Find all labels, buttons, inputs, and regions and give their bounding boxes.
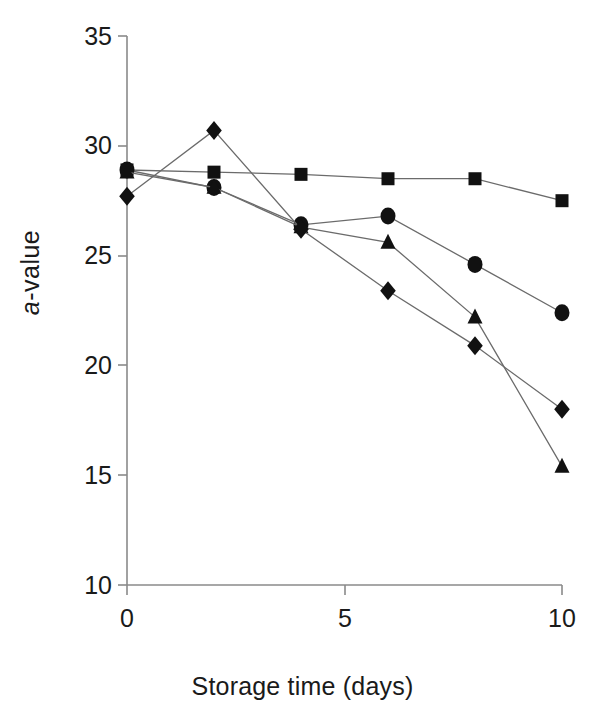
data-point-circle-8[interactable] <box>468 256 483 273</box>
axes-group <box>118 36 562 595</box>
data-point-square-2[interactable] <box>208 166 221 179</box>
series-line-square <box>127 170 562 201</box>
series-line-circle <box>127 170 562 313</box>
plot-area <box>0 0 605 724</box>
data-point-triangle-8[interactable] <box>468 308 483 323</box>
series-line-triangle <box>127 172 562 466</box>
data-point-diamond-0[interactable] <box>119 187 135 206</box>
series-triangle <box>120 163 570 472</box>
data-point-square-6[interactable] <box>382 172 395 185</box>
chart-figure: a-value Storage time (days) 35 30 25 20 … <box>0 0 605 724</box>
series-layer <box>119 121 570 473</box>
data-point-diamond-8[interactable] <box>467 336 483 355</box>
data-point-circle-10[interactable] <box>555 304 570 321</box>
data-point-circle-6[interactable] <box>381 208 396 225</box>
data-point-triangle-10[interactable] <box>555 458 570 473</box>
series-diamond <box>119 121 570 419</box>
data-point-square-10[interactable] <box>556 194 569 207</box>
data-point-square-8[interactable] <box>469 172 482 185</box>
data-point-square-4[interactable] <box>295 168 308 181</box>
data-point-diamond-10[interactable] <box>554 400 570 419</box>
data-point-diamond-6[interactable] <box>380 281 396 300</box>
series-square <box>121 163 569 207</box>
